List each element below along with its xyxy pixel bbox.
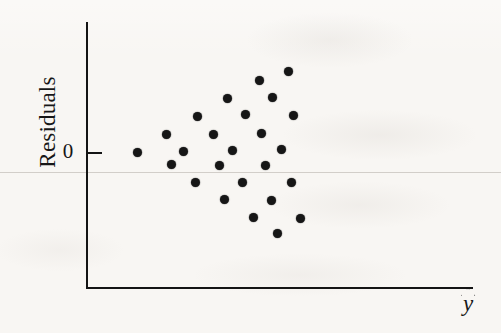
scatter-point — [162, 130, 171, 139]
scatter-plot-area — [0, 0, 501, 333]
scatter-point — [238, 178, 247, 187]
scatter-point — [257, 129, 266, 138]
scatter-point — [193, 112, 202, 121]
y-axis-line — [86, 22, 88, 288]
y-axis-title: Residuals — [34, 52, 62, 192]
scatter-point — [228, 146, 237, 155]
scatter-point — [241, 110, 250, 119]
y-axis-zero-tick — [88, 152, 102, 154]
scatter-point — [261, 161, 270, 170]
scatter-point — [179, 147, 188, 156]
scatter-point — [215, 161, 224, 170]
scatter-point — [273, 229, 282, 238]
scatter-point — [223, 94, 232, 103]
scatter-point — [167, 160, 176, 169]
x-axis-line — [86, 287, 473, 289]
x-axis-title: y — [463, 289, 473, 319]
scatter-point — [284, 67, 293, 76]
scatter-point — [220, 195, 229, 204]
page-bleed-rule — [0, 172, 501, 173]
scatter-point — [287, 178, 296, 187]
scatter-point — [133, 148, 142, 157]
scatter-point — [267, 196, 276, 205]
scatter-point — [296, 214, 305, 223]
scatter-point — [209, 130, 218, 139]
scatter-point — [255, 76, 264, 85]
residual-plot-figure: 0 Residuals y — [0, 0, 501, 333]
y-hat-glyph: y — [463, 289, 473, 319]
scatter-point — [249, 213, 258, 222]
paper-texture — [0, 0, 501, 333]
scatter-point — [289, 111, 298, 120]
scatter-point — [268, 93, 277, 102]
scatter-point — [277, 145, 286, 154]
scatter-point — [191, 178, 200, 187]
